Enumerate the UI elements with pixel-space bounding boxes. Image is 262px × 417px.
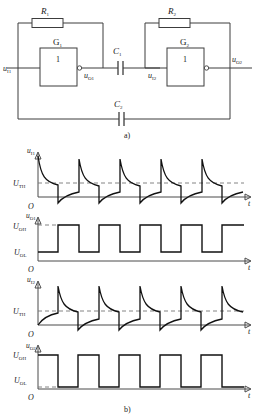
node-label-uo2: uO2 <box>232 55 243 65</box>
figure-svg: R1 G1 1 uI1 uO1 C1 R2 G2 1 u <box>0 0 262 417</box>
plot-ui1-threshold-label: UTH <box>13 179 26 189</box>
figure-container: R1 G1 1 uI1 uO1 C1 R2 G2 1 u <box>0 0 262 417</box>
plot-uo2-origin-label: O <box>28 393 34 402</box>
plot-uo1-uoh-label: UOH <box>13 222 26 232</box>
caption-a: a) <box>124 131 131 140</box>
plot-uo1-origin-label: O <box>28 265 34 274</box>
node-label-uo1: uO1 <box>84 71 95 81</box>
capacitor-c1: C1 <box>113 46 160 75</box>
resistor-r1-body <box>32 19 63 28</box>
plot-ui2-origin-label: O <box>28 330 34 339</box>
resistor-r2-body <box>159 19 190 28</box>
plot-uo2-uol-label: UOL <box>14 376 26 386</box>
resistor-r2-label: R2 <box>167 6 177 17</box>
gate-g2-body <box>167 48 204 86</box>
plot-ui1-waveform <box>38 156 243 203</box>
gate-g2-output-bubble <box>204 66 208 70</box>
gate-g1-symbol: 1 <box>56 55 60 64</box>
plot-ui1-origin-label: O <box>28 202 34 211</box>
plot-uo2-waveform <box>38 355 244 387</box>
plot-uo1-y-label: uO1 <box>26 211 36 221</box>
capacitor-c2: C2 <box>18 99 230 126</box>
gate-g1-output-bubble <box>77 66 81 70</box>
plot-uo1-uol-label: UOL <box>14 248 26 258</box>
plot-ui2: uI2 UTH O t <box>13 275 251 339</box>
plot-ui1: uI1 UTH O t <box>13 146 251 211</box>
plot-ui2-waveform <box>38 286 243 330</box>
plot-uo2-x-label: t <box>248 391 251 400</box>
plot-ui2-y-label: uI2 <box>27 275 35 285</box>
plot-uo2-y-label: uO2 <box>26 341 36 351</box>
gate-g2-label: G2 <box>180 37 190 48</box>
gate-g2-symbol: 1 <box>183 55 187 64</box>
capacitor-c1-label: C1 <box>113 46 122 57</box>
capacitor-c2-label: C2 <box>114 99 123 110</box>
wire-r1-left <box>18 23 32 68</box>
plot-ui2-threshold-label: UTH <box>13 307 26 317</box>
gate-g1-label: G1 <box>53 37 63 48</box>
node-label-ui2: uI2 <box>148 71 157 81</box>
node-label-ui1: uI1 <box>3 64 12 74</box>
circuit-diagram: R1 G1 1 uI1 uO1 C1 R2 G2 1 u <box>3 6 252 140</box>
resistor-r1-label: R1 <box>40 6 50 17</box>
plot-ui1-x-label: t <box>248 199 251 208</box>
plot-ui1-y-label: uI1 <box>27 146 35 156</box>
plot-uo1-waveform <box>38 225 244 252</box>
plot-uo2-uoh-label: UOH <box>13 351 26 361</box>
plot-uo2: uO2 UOH UOL O t <box>13 341 251 402</box>
wire-r2-left <box>145 23 159 68</box>
plot-uo1: uO1 UOH UOL O t <box>13 211 251 274</box>
plot-uo1-x-label: t <box>248 263 251 272</box>
plot-ui2-x-label: t <box>248 327 251 336</box>
gate-g1-body <box>40 48 77 86</box>
caption-b: b) <box>124 405 131 414</box>
